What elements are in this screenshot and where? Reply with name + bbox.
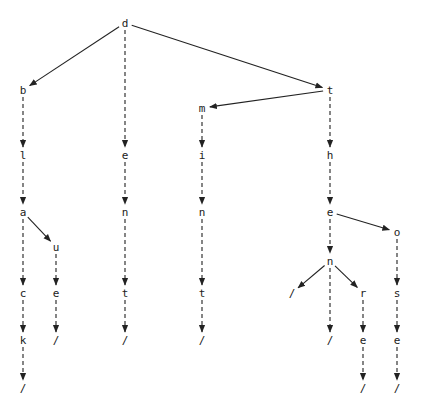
trie-node: l xyxy=(20,149,27,162)
trie-node: n xyxy=(327,255,334,268)
trie-node: r xyxy=(360,287,367,300)
trie-diagram: dbtmleihanneuon/cettrsk////ee/// xyxy=(0,0,422,407)
terminator-node: / xyxy=(122,334,129,347)
sibling-link-arrow xyxy=(132,25,323,87)
trie-node: d xyxy=(122,17,129,30)
sibling-link-arrow xyxy=(335,266,357,288)
trie-node: t xyxy=(327,84,334,97)
trie-node: u xyxy=(53,241,60,254)
trie-node: n xyxy=(199,206,206,219)
trie-node: t xyxy=(122,287,129,300)
trie-node: c xyxy=(20,287,27,300)
sibling-link-arrow xyxy=(28,217,51,241)
terminator-node: / xyxy=(53,334,60,347)
terminator-node: / xyxy=(394,382,401,395)
trie-node: e xyxy=(394,334,401,347)
trie-node: e xyxy=(327,206,334,219)
terminator-node: / xyxy=(20,382,27,395)
sibling-link-arrow xyxy=(337,214,390,230)
trie-node: a xyxy=(20,206,27,219)
sibling-link-arrow xyxy=(210,91,323,107)
trie-node: s xyxy=(394,287,401,300)
trie-node: k xyxy=(20,334,27,347)
trie-node: t xyxy=(199,287,206,300)
trie-node: h xyxy=(327,149,334,162)
trie-node: b xyxy=(20,84,27,97)
trie-node: e xyxy=(53,287,60,300)
trie-node: m xyxy=(199,102,206,115)
trie-node: e xyxy=(360,334,367,347)
edges-layer xyxy=(23,25,397,380)
trie-node: i xyxy=(199,149,206,162)
trie-node: e xyxy=(122,149,129,162)
trie-node: n xyxy=(122,206,129,219)
nodes-layer: dbtmleihanneuon/cettrsk////ee/// xyxy=(20,17,401,395)
trie-node: o xyxy=(394,226,401,239)
terminator-node: / xyxy=(199,334,206,347)
terminator-node: / xyxy=(360,382,367,395)
sibling-link-arrow xyxy=(30,27,119,86)
terminator-node: / xyxy=(289,287,296,300)
terminator-node: / xyxy=(327,334,334,347)
sibling-link-arrow xyxy=(298,266,325,288)
